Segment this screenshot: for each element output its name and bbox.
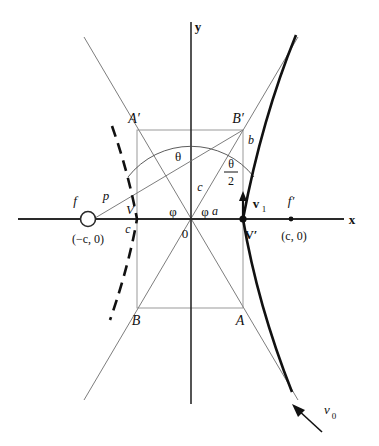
segment-label-p: p bbox=[102, 188, 110, 203]
focus-left-label: f bbox=[73, 193, 79, 208]
vector-label-v0: v bbox=[324, 402, 330, 417]
impact-parameter-line bbox=[90, 130, 243, 221]
vector-label-v1: v bbox=[253, 196, 260, 211]
label-group: x y 0 A′ B′ B A f (−c, 0) f′ (c, 0) V V′… bbox=[72, 19, 356, 421]
velocity-v0-arrow bbox=[292, 404, 322, 432]
segment-label-b: b bbox=[248, 133, 254, 147]
segment-label-c: c bbox=[197, 180, 203, 194]
angle-label-phi-left: φ bbox=[169, 204, 177, 219]
angle-label-theta: θ bbox=[175, 149, 181, 164]
vector-label-v0-subscript: 0 bbox=[332, 411, 337, 421]
segment-label-c-left: c bbox=[125, 222, 131, 236]
angle-label-half-theta-numerator: θ bbox=[228, 157, 234, 171]
corner-label-bottom-right: A bbox=[235, 313, 245, 328]
vector-label-v1-subscript: 1 bbox=[262, 204, 267, 214]
segment-label-a: a bbox=[212, 204, 218, 218]
corner-label-bottom-left: B bbox=[132, 313, 141, 328]
angle-label-half-theta-denominator: 2 bbox=[228, 174, 234, 188]
angle-label-phi-right: φ bbox=[201, 204, 209, 219]
corner-label-top-right: B′ bbox=[232, 111, 245, 126]
vertex-right-label: V′ bbox=[244, 227, 257, 242]
axes-group bbox=[18, 22, 344, 404]
vertex-right-dot bbox=[239, 215, 246, 222]
origin-label: 0 bbox=[182, 226, 189, 241]
focus-right-marker bbox=[289, 217, 294, 222]
hyperbola-diagram: x y 0 A′ B′ B A f (−c, 0) f′ (c, 0) V V′… bbox=[0, 0, 379, 446]
focus-left-coord: (−c, 0) bbox=[72, 232, 104, 246]
hyperbola-left-branch bbox=[110, 126, 137, 320]
hyperbola-figure: x y 0 A′ B′ B A f (−c, 0) f′ (c, 0) V V′… bbox=[0, 0, 379, 446]
focus-right-coord: (c, 0) bbox=[281, 229, 306, 243]
hyperbola-right-branch bbox=[243, 35, 296, 392]
corner-label-top-left: A′ bbox=[127, 111, 141, 126]
focus-right-label: f′ bbox=[288, 193, 295, 208]
x-axis-label: x bbox=[349, 212, 356, 227]
focus-left-marker bbox=[81, 212, 96, 227]
y-axis-label: y bbox=[195, 19, 202, 34]
